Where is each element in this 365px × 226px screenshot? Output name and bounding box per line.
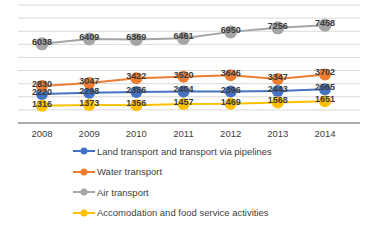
data-label: 1373	[79, 98, 99, 108]
data-label: 2443	[268, 84, 288, 94]
data-label: 3646	[221, 68, 241, 78]
legend-marker-icon	[73, 167, 95, 177]
data-label: 1457	[173, 97, 193, 107]
legend-marker-icon	[73, 208, 95, 218]
data-label: 3047	[79, 76, 99, 86]
data-label: 6409	[79, 32, 99, 42]
data-label: 2565	[315, 82, 335, 92]
chart-legend: Land transport and transport via pipelin…	[73, 141, 272, 223]
data-label: 2830	[32, 79, 52, 89]
legend-label: Water transport	[97, 167, 162, 177]
legend-label: Accomodation and food service activities	[97, 208, 269, 218]
x-tick-label: 2011	[173, 128, 193, 139]
data-label: 3520	[173, 70, 193, 80]
legend-label: Land transport and transport via pipelin…	[97, 147, 272, 157]
data-label: 7256	[268, 21, 288, 31]
legend-item-0: Land transport and transport via pipelin…	[73, 141, 272, 162]
data-label: 1568	[268, 95, 288, 105]
legend-label: Air transport	[97, 188, 149, 198]
legend-item-2: Air transport	[73, 182, 272, 203]
data-label: 2396	[221, 85, 241, 95]
legend-marker-icon	[73, 146, 95, 156]
x-tick-label: 2008	[31, 128, 52, 139]
data-label: 3702	[315, 67, 335, 77]
data-label: 1651	[315, 94, 335, 104]
data-label: 2298	[79, 86, 99, 96]
data-label: 2356	[126, 85, 146, 95]
data-label: 1316	[32, 99, 52, 109]
data-label: 2404	[173, 84, 193, 94]
legend-marker-icon	[73, 187, 95, 197]
line-chart: 2220229823562404239624432565283030473422…	[0, 0, 365, 226]
data-label: 7458	[315, 18, 335, 28]
data-label: 1356	[126, 98, 146, 108]
x-tick-label: 2009	[79, 128, 100, 139]
data-label: 6369	[126, 32, 146, 42]
x-tick-label: 2013	[267, 128, 288, 139]
data-label: 1469	[221, 97, 241, 107]
data-label: 3422	[126, 71, 146, 81]
legend-item-3: Accomodation and food service activities	[73, 203, 272, 224]
x-tick-label: 2012	[220, 128, 241, 139]
legend-item-1: Water transport	[73, 162, 272, 183]
data-label: 6950	[221, 25, 241, 35]
data-label: 3347	[268, 72, 288, 82]
data-label: 6038	[32, 37, 52, 47]
x-tick-label: 2014	[314, 128, 335, 139]
x-tick-label: 2010	[126, 128, 147, 139]
data-label: 6461	[173, 31, 193, 41]
